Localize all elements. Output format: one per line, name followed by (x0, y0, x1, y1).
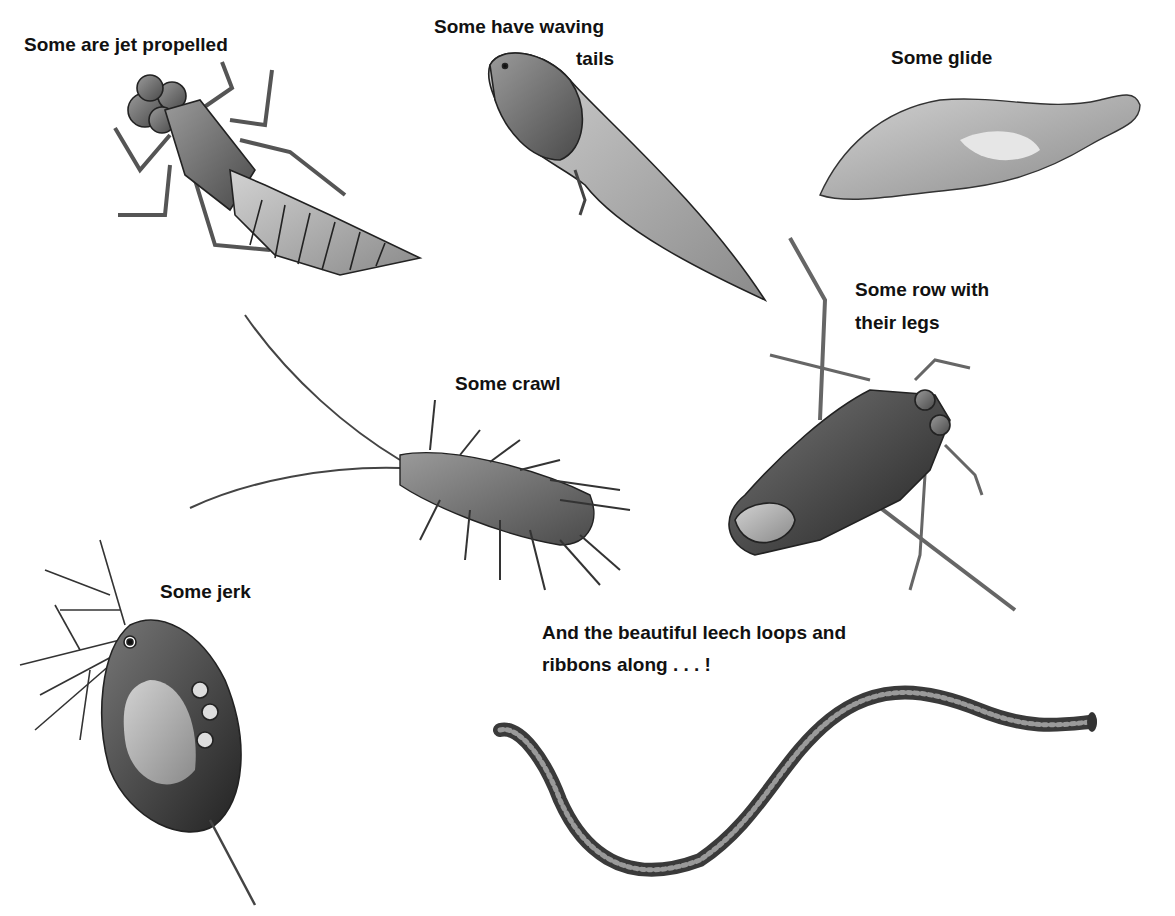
leech-icon (500, 693, 1097, 870)
flatworm-icon (820, 95, 1140, 199)
caption-leech-line2: ribbons along . . . ! (542, 648, 711, 681)
illustration-canvas (0, 0, 1175, 916)
caption-glide: Some glide (891, 41, 992, 74)
caption-row-line2: their legs (855, 306, 939, 339)
caption-jet-propelled: Some are jet propelled (24, 28, 228, 61)
caption-crawl: Some crawl (455, 367, 561, 400)
dragonfly-nymph-icon (115, 62, 420, 275)
caption-waving-tails-line2: tails (576, 42, 614, 75)
water-louse-icon (190, 315, 630, 590)
caption-leech-line1: And the beautiful leech loops and (542, 616, 846, 649)
caption-row-line1: Some row with (855, 273, 989, 306)
caption-jerk: Some jerk (160, 575, 251, 608)
tadpole-icon (489, 53, 765, 300)
caption-waving-tails-line1: Some have waving (434, 10, 604, 43)
